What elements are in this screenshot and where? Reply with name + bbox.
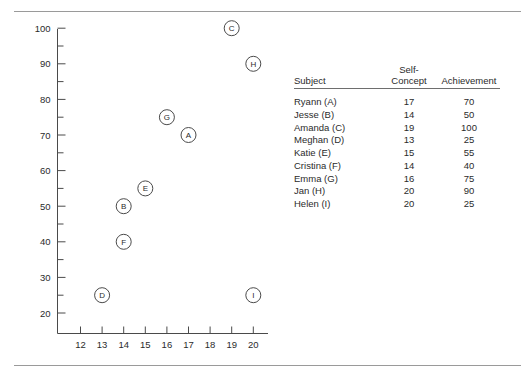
column-header-subject: Subject [294,64,380,88]
data-point-h: H [246,56,261,71]
x-tick-label: 15 [140,339,151,350]
cell-subject: Meghan (D) [294,134,380,147]
y-tick-label: 90 [40,58,51,69]
y-tick-label: 30 [40,272,51,283]
cell-self-concept: 14 [380,108,438,121]
column-header-subject-label: Subject [294,75,326,86]
data-point-label: G [164,113,170,122]
cell-subject: Katie (E) [294,147,380,160]
cell-subject: Jesse (B) [294,108,380,121]
data-point-label: F [121,238,126,247]
data-point-label: E [143,184,148,193]
cell-self-concept: 20 [380,185,438,198]
data-point-label: B [121,202,126,211]
cell-self-concept: 13 [380,134,438,147]
y-tick-label: 100 [35,23,51,34]
cell-subject: Amanda (C) [294,121,380,134]
x-tick-label: 20 [248,339,259,350]
data-point-label: I [252,291,254,300]
y-tick-label: 60 [40,165,51,176]
x-tick-label: 13 [97,339,108,350]
cell-self-concept: 16 [380,172,438,185]
y-tick-label: 50 [40,201,51,212]
cell-self-concept: 19 [380,121,438,134]
data-point-e: E [138,181,153,196]
column-header-achievement: Achievement [438,64,500,88]
cell-achievement: 70 [438,89,500,109]
cell-achievement: 75 [438,172,500,185]
table-row: Katie (E)1555 [294,147,500,160]
data-points: ABCDEFGHI [95,21,261,303]
x-tick-label: 16 [162,339,173,350]
y-axis-tick-labels: 2030405060708090100 [35,23,51,319]
table-row: Cristina (F)1440 [294,159,500,172]
cell-achievement: 25 [438,198,500,211]
cell-self-concept: 14 [380,159,438,172]
data-point-f: F [116,234,131,249]
cell-achievement: 55 [438,147,500,160]
x-tick-label: 17 [183,339,194,350]
column-header-self-concept-line2: Concept [380,75,438,86]
data-point-d: D [95,288,110,303]
cell-self-concept: 15 [380,147,438,160]
cell-subject: Ryann (A) [294,89,380,109]
data-table: Subject Self- Concept Achievement Ryann … [294,64,500,210]
data-point-g: G [159,110,174,125]
data-point-label: H [250,60,256,69]
y-tick-label: 40 [40,236,51,247]
x-tick-label: 14 [118,339,129,350]
table-body: Ryann (A)1770Jesse (B)1450Amanda (C)1910… [294,89,500,211]
cell-self-concept: 17 [380,89,438,109]
plot-canvas: 2030405060708090100 121314151617181920 A… [0,0,290,377]
data-point-label: A [186,131,192,140]
table-row: Jan (H)2090 [294,185,500,198]
table-row: Jesse (B)1450 [294,108,500,121]
data-point-label: C [229,24,235,33]
cell-subject: Helen (I) [294,198,380,211]
cell-achievement: 40 [438,159,500,172]
table-row: Helen (I)2025 [294,198,500,211]
cell-subject: Cristina (F) [294,159,380,172]
y-axis-ticks [58,28,66,313]
table-header-row: Subject Self- Concept Achievement [294,64,500,88]
x-axis-ticks [81,327,254,334]
y-tick-label: 20 [40,308,51,319]
y-tick-label: 70 [40,130,51,141]
cell-achievement: 25 [438,134,500,147]
cell-achievement: 100 [438,121,500,134]
y-tick-label: 80 [40,94,51,105]
cell-achievement: 50 [438,108,500,121]
column-header-achievement-label: Achievement [442,75,497,86]
x-tick-label: 19 [226,339,237,350]
x-tick-label: 18 [205,339,216,350]
cell-subject: Emma (G) [294,172,380,185]
axes [58,29,269,334]
cell-subject: Jan (H) [294,185,380,198]
data-point-c: C [224,21,239,36]
cell-achievement: 90 [438,185,500,198]
data-point-label: D [99,291,105,300]
table-row: Emma (G)1675 [294,172,500,185]
x-axis-tick-labels: 121314151617181920 [75,339,258,350]
table-row: Ryann (A)1770 [294,89,500,109]
data-point-a: A [181,128,196,143]
scatter-plot: 2030405060708090100 121314151617181920 A… [0,0,290,377]
cell-self-concept: 20 [380,198,438,211]
table-row: Meghan (D)1325 [294,134,500,147]
data-point-i: I [246,288,261,303]
table-row: Amanda (C)19100 [294,121,500,134]
data-point-b: B [116,199,131,214]
column-header-self-concept: Self- Concept [380,64,438,88]
x-tick-label: 12 [75,339,86,350]
column-header-self-concept-line1: Self- [380,64,438,75]
